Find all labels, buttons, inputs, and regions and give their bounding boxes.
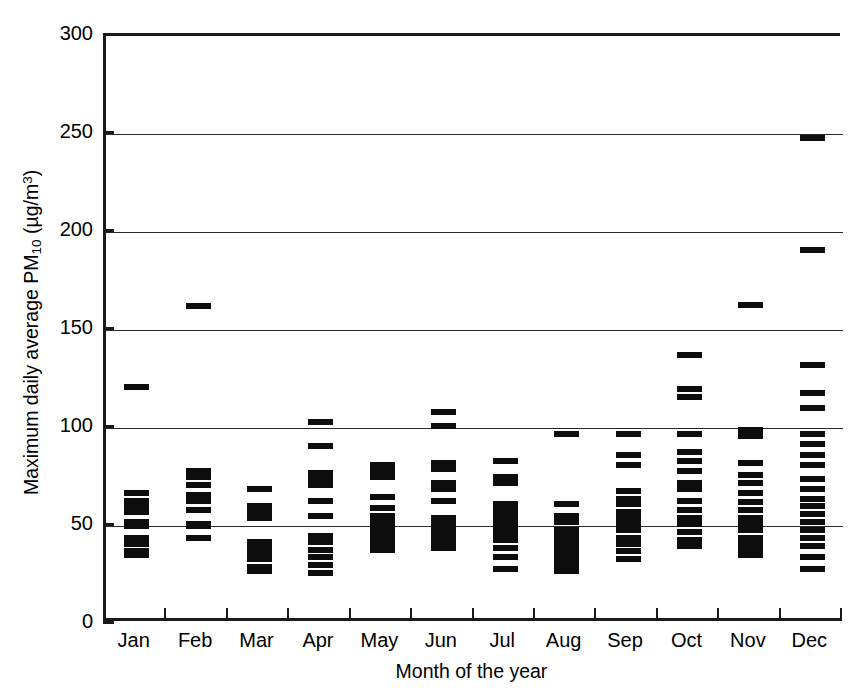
data-point (247, 568, 272, 574)
data-point (616, 556, 641, 562)
x-tick-label-may: May (344, 628, 414, 652)
data-point (800, 462, 825, 468)
data-point (370, 474, 395, 480)
data-point (738, 472, 763, 478)
x-tick-label-nov: Nov (713, 628, 783, 652)
x-tick-mark-2 (226, 608, 228, 621)
data-point (800, 135, 825, 141)
data-point (616, 527, 641, 533)
data-point (800, 511, 825, 517)
data-point (677, 543, 702, 549)
data-point (677, 394, 702, 400)
x-tick-label-aug: Aug (529, 628, 599, 652)
data-point (738, 552, 763, 558)
y-tick-label-150: 150 (47, 317, 93, 337)
data-point (616, 462, 641, 468)
data-point (186, 535, 211, 541)
y-axis-tick-labels: 050100150200250300 (37, 0, 93, 697)
data-point (308, 443, 333, 449)
data-point (370, 505, 395, 511)
y-axis-title-superscript: 3 (20, 176, 35, 184)
x-tick-mark-8 (594, 608, 596, 621)
data-point (677, 431, 702, 437)
data-point (186, 303, 211, 309)
x-tick-mark-12 (840, 608, 842, 621)
data-point (308, 498, 333, 504)
data-point (800, 405, 825, 411)
data-point (800, 535, 825, 541)
x-tick-label-dec: Dec (774, 628, 844, 652)
data-point (800, 362, 825, 368)
data-point (800, 486, 825, 492)
x-tick-mark-7 (533, 608, 535, 621)
y-tick-label-250: 250 (47, 121, 93, 141)
data-point (738, 499, 763, 505)
x-tick-mark-11 (779, 608, 781, 621)
data-point (308, 562, 333, 568)
data-point (800, 247, 825, 253)
x-tick-mark-10 (717, 608, 719, 621)
x-tick-mark-0 (103, 608, 105, 621)
x-tick-mark-6 (472, 608, 474, 621)
gridline-100 (106, 428, 843, 429)
x-tick-mark-3 (287, 608, 289, 621)
gridline-200 (106, 232, 843, 233)
data-point (800, 566, 825, 572)
data-point (677, 386, 702, 392)
gridline-50 (106, 526, 843, 527)
data-point (186, 523, 211, 529)
data-point (800, 527, 825, 533)
data-point (677, 468, 702, 474)
data-point (124, 490, 149, 496)
data-point (186, 507, 211, 513)
x-tick-label-apr: Apr (283, 628, 353, 652)
data-point (800, 390, 825, 396)
data-point (800, 431, 825, 437)
data-point (616, 488, 641, 494)
data-point (493, 458, 518, 464)
data-point (186, 498, 211, 504)
x-tick-label-jun: Jun (406, 628, 476, 652)
data-point (738, 460, 763, 466)
data-point (677, 352, 702, 358)
data-point (124, 523, 149, 529)
gridline-250 (106, 134, 843, 135)
data-point (616, 431, 641, 437)
data-point (431, 545, 456, 551)
data-point (800, 519, 825, 525)
data-point (247, 556, 272, 562)
x-tick-label-feb: Feb (160, 628, 230, 652)
data-point (308, 547, 333, 553)
data-point (308, 419, 333, 425)
data-point (616, 501, 641, 507)
data-point (493, 537, 518, 543)
data-point (247, 515, 272, 521)
x-tick-mark-5 (410, 608, 412, 621)
data-point (493, 554, 518, 560)
data-point (800, 554, 825, 560)
data-point (800, 441, 825, 447)
x-axis-title: Month of the year (103, 660, 840, 683)
data-point (370, 494, 395, 500)
y-tick-label-300: 300 (47, 23, 93, 43)
data-point (308, 513, 333, 519)
y-tick-mark-0 (103, 621, 114, 624)
data-point (493, 566, 518, 572)
x-tick-mark-1 (164, 608, 166, 621)
data-point (738, 490, 763, 496)
data-point (431, 466, 456, 472)
y-tick-label-50: 50 (47, 513, 93, 533)
x-tick-label-sep: Sep (590, 628, 660, 652)
x-tick-mark-4 (349, 608, 351, 621)
x-tick-label-jul: Jul (467, 628, 537, 652)
data-point (124, 509, 149, 515)
data-point (247, 486, 272, 492)
data-point (800, 503, 825, 509)
data-point (554, 568, 579, 574)
data-point (554, 431, 579, 437)
data-point (677, 529, 702, 535)
y-tick-label-100: 100 (47, 415, 93, 435)
data-point (616, 541, 641, 547)
data-point (677, 486, 702, 492)
data-point (677, 449, 702, 455)
